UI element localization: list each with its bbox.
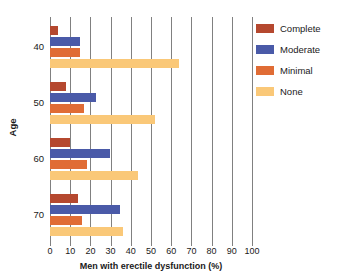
y-axis-title: Age	[7, 108, 18, 148]
x-axis-tick-label: 100	[237, 246, 267, 256]
gridline	[131, 17, 132, 241]
bar-minimal-age-40	[50, 48, 80, 57]
bar-none-age-40	[50, 59, 179, 68]
legend-label: Minimal	[280, 65, 313, 76]
legend-swatch-none	[256, 87, 274, 96]
chart-figure: Age 40506070 0102030405060708090100 Men …	[0, 0, 357, 280]
gridline	[171, 17, 172, 241]
bar-minimal-age-60	[50, 160, 87, 169]
bar-moderate-age-70	[50, 205, 120, 214]
bar-complete-age-70	[50, 194, 78, 203]
legend-label: Moderate	[280, 44, 320, 55]
y-axis-tick-label-60: 60	[16, 153, 44, 164]
legend-swatch-minimal	[256, 66, 274, 75]
gridline	[151, 17, 152, 241]
legend-label: None	[280, 86, 303, 97]
legend-item-minimal[interactable]: Minimal	[256, 60, 356, 81]
y-axis-tick-label-40: 40	[16, 41, 44, 52]
plot-area	[50, 17, 252, 241]
bar-minimal-age-70	[50, 216, 82, 225]
legend-item-none[interactable]: None	[256, 81, 356, 102]
legend-swatch-moderate	[256, 45, 274, 54]
bar-none-age-70	[50, 227, 123, 236]
legend-item-moderate[interactable]: Moderate	[256, 39, 356, 60]
bar-moderate-age-40	[50, 37, 80, 46]
bar-none-age-50	[50, 115, 155, 124]
bar-complete-age-40	[50, 26, 58, 35]
legend-item-complete[interactable]: Complete	[256, 18, 356, 39]
y-axis-tick-label-50: 50	[16, 97, 44, 108]
bar-moderate-age-50	[50, 93, 96, 102]
gridline	[212, 17, 213, 241]
bar-moderate-age-60	[50, 149, 110, 158]
gridline	[252, 17, 253, 241]
gridline	[191, 17, 192, 241]
y-axis-tick-label-70: 70	[16, 209, 44, 220]
bar-complete-age-60	[50, 138, 70, 147]
bar-complete-age-50	[50, 82, 66, 91]
legend-label: Complete	[280, 23, 321, 34]
bar-minimal-age-50	[50, 104, 84, 113]
bar-none-age-60	[50, 171, 138, 180]
legend-swatch-complete	[256, 24, 274, 33]
chart-legend: CompleteModerateMinimalNone	[256, 18, 356, 102]
x-axis-title: Men with erectile dysfunction (%)	[50, 261, 252, 271]
gridline	[232, 17, 233, 241]
